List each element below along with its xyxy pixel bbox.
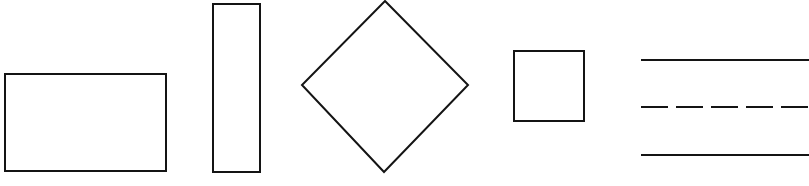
wide-rectangle (5, 74, 166, 171)
tall-rectangle (213, 4, 260, 172)
shapes-diagram (0, 0, 809, 186)
diamond (302, 1, 468, 172)
square (514, 51, 584, 121)
diagram-canvas (0, 0, 809, 186)
